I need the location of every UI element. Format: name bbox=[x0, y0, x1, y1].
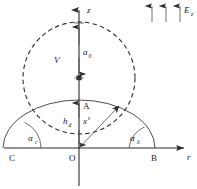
radial-coord-label-symbol: x bbox=[82, 116, 87, 126]
angle-arc-left bbox=[25, 122, 42, 148]
physics-diagram-figure: z r E z V a 0 A h d x s α c α b C O B bbox=[0, 0, 197, 189]
field-label-symbol: E bbox=[183, 5, 190, 15]
radius-vector-arrow bbox=[79, 106, 119, 148]
angle-left-label-symbol: α bbox=[28, 133, 33, 143]
origin-label: O bbox=[69, 153, 76, 163]
z-axis-label: z bbox=[86, 5, 91, 15]
potential-label: V bbox=[54, 55, 61, 65]
field-label-subscript: z bbox=[190, 11, 194, 17]
height-label-symbol: h bbox=[63, 116, 68, 126]
uniform-field-arrows bbox=[152, 6, 180, 22]
angle-right-label-subscript: b bbox=[137, 139, 140, 145]
diagram-canvas: z r E z V a 0 A h d x s α c α b C O B bbox=[0, 0, 197, 189]
angle-left-label-subscript: c bbox=[35, 139, 38, 145]
height-label-subscript: d bbox=[69, 122, 72, 128]
point-a-label: A bbox=[83, 101, 90, 111]
radial-coord-label-superscript: s bbox=[88, 115, 90, 121]
r-axis-label: r bbox=[187, 152, 191, 162]
sphere-radius-label-subscript: 0 bbox=[89, 53, 92, 59]
angle-right-label-symbol: α bbox=[130, 133, 135, 143]
point-b-label: B bbox=[151, 153, 157, 163]
point-c-label: C bbox=[9, 153, 15, 163]
sphere-radius-label-symbol: a bbox=[83, 47, 88, 57]
